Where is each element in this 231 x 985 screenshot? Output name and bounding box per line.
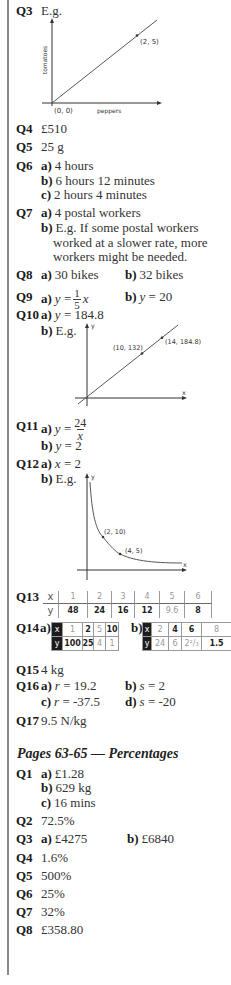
x-axis-label: peppers [97,107,121,115]
answer-q17: Q17 9.5 N/kg [0,713,231,728]
pct-answer-q2: Q2 72.5% [0,813,231,828]
table-cell: 6 [182,623,202,637]
table-cell: 24 [152,637,169,651]
table-cell: 10 [106,623,119,637]
answer-q11a: Q11 a)y =24x [0,418,231,438]
table-cell: 48 [59,604,88,618]
answer-text: = -20 [148,694,176,709]
question-label: Q10 [16,307,39,322]
table-cell: 1.5 [202,637,231,651]
part-b: b)32 bikes [125,267,183,282]
question-label: Q1 [16,766,33,781]
table-header-x: x [143,623,152,637]
answer-q7b-line2: worked at a slower rate, more [0,235,231,250]
table-cell: 2 [88,591,112,604]
answer-q8: Q8 a)30 bikes b)32 bikes [0,267,231,282]
table-cell: 4 [169,623,182,637]
variable: r [55,678,60,693]
y-axis-label: tomatoes [41,46,48,74]
answer-text: £358.80 [41,922,83,937]
part-letter: b) [131,620,143,635]
question-label: Q9 [16,289,33,304]
answer-q5: Q5 25 g [0,139,231,154]
table-cell: 2 [152,623,169,637]
table-cell: 6 [169,637,182,651]
question-label: Q5 [16,139,33,154]
origin-label: (0, 0) [54,107,73,115]
question-label: Q12 [16,456,39,471]
pct-answer-q1b: b)629 kg [0,780,231,795]
table-cell: 4 [135,591,160,604]
answer-text: 4 postal workers [55,205,141,220]
part-c: c)16 mins [41,795,96,810]
part-letter: b) [41,471,53,486]
table-cell: 1 [59,591,88,604]
data-point [141,352,144,355]
table-cell: 8 [202,623,231,637]
table-cell: 9.6 [160,604,185,618]
table-cell: 1 [106,637,119,651]
numerator: 1 [73,288,81,299]
variable: y [55,291,61,306]
part-letter: d) [125,694,137,709]
part-b: b)y = 2 [41,438,82,453]
plot-line [78,325,178,404]
part-letter: a) [41,831,52,846]
question-label: Q5 [16,868,33,883]
question-label: Q4 [16,121,33,136]
question-label: Q7 [16,205,33,220]
table-cell: 100 [63,637,83,651]
table-cell: 6 [185,591,212,604]
x-axis-arrow-icon [157,101,162,105]
part-b: b)y = 20 [125,289,172,304]
table-cell: 2 [83,623,94,637]
pct-answer-q3: Q3 a)£4275 b)£6840 [0,831,231,846]
part-c: c)r = -37.5 [41,694,100,709]
answer-q16-ab: Q16 a)r = 19.2 b)s = 2 [0,678,231,693]
answer-text: 2 hours 4 minutes [54,187,147,202]
answer-text: 25% [41,886,65,901]
part-letter: b) [41,438,53,453]
question-label: Q8 [16,922,33,937]
answer-text: 32% [41,904,65,919]
q13-table: x 1 2 3 4 5 6 y 48 24 16 12 9.6 8 [43,591,212,618]
answer-text: workers might be needed. [53,249,187,264]
question-label: Q13 [16,589,39,604]
part-letter: b) [41,220,53,235]
pct-answer-q6: Q6 25% [0,886,231,901]
part-a: a)r = 19.2 [41,678,97,693]
part-letter: c) [41,795,51,810]
part-letter: a) [41,421,52,436]
table-cell: 12 [135,604,160,618]
part-letter: a) [41,158,52,173]
question-label: Q8 [16,267,33,282]
y-axis-label: y [91,322,95,330]
equals: = [64,291,71,306]
answer-q15: Q15 4 kg [0,662,231,677]
part-letter: a) [41,267,52,282]
answer-text: 25 g [41,139,64,154]
answer-text: 9.5 N/kg [41,713,87,728]
part-b: b)£6840 [127,831,174,846]
part-a: a)£4275 [41,831,87,846]
part-letter: a) [41,291,52,306]
y-axis-arrow-icon [50,18,54,23]
point-label: (14, 184.8) [165,338,201,346]
answer-q16-cd: c)r = -37.5 d)s = -20 [0,694,231,709]
part-b: b)6 hours 12 minutes [41,173,155,188]
variable: s [140,678,145,693]
q3-graph: (2, 5) (0, 0) peppers tomatoes [30,14,170,119]
pct-answer-q1a: Q1 a)£1.28 [0,766,231,781]
answer-text: = -37.5 [62,694,100,709]
answer-q6b: b)6 hours 12 minutes [0,173,231,188]
part-c: c)2 hours 4 minutes [41,187,147,202]
table-header-x: x [52,623,63,637]
answer-text: = 2 [65,438,82,453]
part-letter: a) [41,456,52,471]
question-label: Q2 [16,813,33,828]
pct-answer-q7: Q7 32% [0,904,231,919]
answer-text: E.g. If some postal workers [56,220,199,235]
question-label: Q3 [16,831,33,846]
part-letter: b) [125,267,137,282]
point-label: (10, 132) [113,344,143,352]
